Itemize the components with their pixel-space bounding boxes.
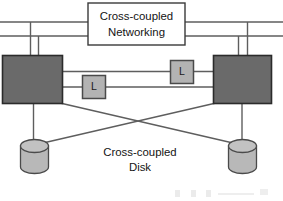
disk-line-cross-right-to-left [43, 103, 216, 143]
scan-artifact-marks [175, 189, 268, 197]
right-node [214, 56, 272, 104]
link-box-upper-right: L [171, 61, 194, 84]
link-box-lower-left-label: L [91, 80, 97, 92]
left-node-rect [3, 56, 63, 104]
right-disk-top [229, 140, 257, 153]
scan-artifact-4 [218, 193, 254, 195]
cross-coupled-architecture-diagram: Cross-coupled Networking L L [0, 0, 283, 201]
link-box-lower-left: L [83, 76, 106, 99]
link-box-upper-right-label: L [179, 65, 185, 77]
scan-artifact-2 [191, 190, 196, 197]
disk-caption-line1: Cross-coupled [103, 146, 176, 158]
left-node [3, 56, 63, 104]
scan-artifact-1 [175, 190, 180, 197]
networking-box-line1: Cross-coupled [100, 10, 173, 22]
left-disk [21, 140, 49, 174]
scan-artifact-3 [206, 190, 211, 197]
scan-artifact-5 [260, 189, 268, 195]
disk-caption-line2: Disk [129, 161, 151, 173]
cross-coupled-networking-box: Cross-coupled Networking [88, 3, 185, 45]
disk-line-cross-left-to-right [60, 103, 233, 143]
left-disk-top [21, 140, 49, 153]
right-node-rect [214, 56, 272, 104]
right-disk [229, 140, 257, 174]
diagram-canvas: Cross-coupled Networking L L [0, 0, 283, 201]
networking-box-line2: Networking [108, 26, 165, 38]
disk-connection-lines [34, 103, 243, 146]
cross-coupled-disk-caption: Cross-coupled Disk [103, 146, 176, 173]
